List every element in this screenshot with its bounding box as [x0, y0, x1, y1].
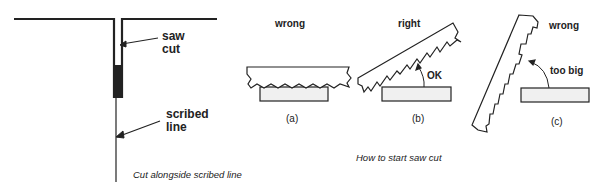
panel-b-right — [358, 23, 461, 101]
panel-a-wrong — [247, 67, 351, 101]
saw-cut-label-line2: cut — [162, 42, 180, 56]
panel-a-title: wrong — [275, 17, 305, 30]
panel-c-title: wrong — [549, 19, 579, 32]
panel-b-label: (b) — [412, 112, 424, 125]
panel-c-label: (c) — [551, 115, 563, 128]
scribed-line-figure — [14, 19, 217, 182]
saw-cut-label-line1: saw — [162, 29, 185, 43]
panel-b-angle-note: OK — [427, 69, 442, 82]
panel-b-title: right — [398, 17, 420, 30]
scribed-line-label: scribedline — [166, 108, 209, 134]
left-caption: Cut alongside scribed line — [133, 168, 242, 181]
panel-a-label: (a) — [286, 112, 298, 125]
scribed-line-label-line2: line — [166, 120, 187, 134]
scribed-line-label-line1: scribed — [166, 107, 209, 121]
saw-cut-label: sawcut — [162, 30, 185, 56]
right-caption: How to start saw cut — [356, 151, 442, 164]
panel-c-angle-note: too big — [550, 64, 583, 77]
